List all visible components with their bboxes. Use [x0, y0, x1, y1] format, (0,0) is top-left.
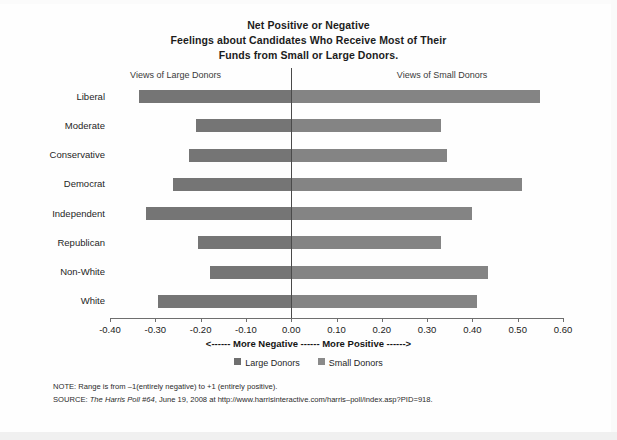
bar-row: Liberal — [110, 90, 563, 103]
legend-swatch-icon — [318, 358, 325, 365]
bar-row: Non-White — [110, 266, 563, 279]
bar-row: Conservative — [110, 149, 563, 162]
category-label: Independent — [52, 209, 105, 219]
x-tick-label: -0.10 — [224, 324, 268, 335]
bar-segment-small-donors — [291, 207, 472, 220]
category-label: Liberal — [76, 92, 105, 102]
x-tick — [337, 318, 338, 322]
bar-row: Independent — [110, 207, 563, 220]
legend-item: Small Donors — [318, 357, 383, 368]
x-tick — [201, 318, 202, 322]
legend-item: Large Donors — [234, 357, 300, 368]
zero-axis-line — [291, 68, 292, 320]
category-label: White — [81, 296, 105, 306]
x-tick — [155, 318, 156, 322]
x-tick — [472, 318, 473, 322]
bar-segment-small-donors — [291, 90, 540, 103]
column-header-large-donors: Views of Large Donors — [88, 70, 263, 80]
bar-row: Moderate — [110, 119, 563, 132]
chart-page: Net Positive or Negative Feelings about … — [0, 0, 617, 440]
source-rest: , June 19, 2008 at http://www.harrisinte… — [155, 395, 433, 404]
bar-segment-large-donors — [189, 149, 291, 162]
x-tick-label: -0.40 — [88, 324, 132, 335]
x-tick — [291, 318, 292, 322]
x-tick-label: -0.30 — [133, 324, 177, 335]
x-tick — [110, 318, 111, 322]
x-tick-label: 0.40 — [450, 324, 494, 335]
category-label: Conservative — [50, 150, 105, 160]
note-line: NOTE: Range is from –1(entirely negative… — [53, 381, 573, 394]
bar-segment-large-donors — [210, 266, 292, 279]
x-tick — [246, 318, 247, 322]
legend-swatch-icon — [234, 358, 241, 365]
legend-label: Large Donors — [245, 358, 300, 368]
column-header-small-donors: Views of Small Donors — [332, 70, 552, 80]
bar-segment-small-donors — [291, 119, 440, 132]
x-tick-label: 0.30 — [405, 324, 449, 335]
bar-segment-small-donors — [291, 149, 447, 162]
category-label: Democrat — [64, 179, 105, 189]
x-tick — [518, 318, 519, 322]
x-tick-label: 0.50 — [496, 324, 540, 335]
x-tick-label: -0.20 — [179, 324, 223, 335]
x-tick — [563, 318, 564, 322]
bar-segment-small-donors — [291, 266, 488, 279]
x-tick-label: 0.10 — [315, 324, 359, 335]
plot-area: Views of Large Donors Views of Small Don… — [110, 84, 563, 318]
page-edge-top — [0, 0, 617, 4]
legend-label: Small Donors — [329, 358, 383, 368]
bar-segment-large-donors — [196, 119, 291, 132]
x-tick-label: 0.60 — [541, 324, 585, 335]
title-line-1: Net Positive or Negative — [0, 18, 617, 33]
chart-legend: Large DonorsSmall Donors — [0, 357, 617, 368]
bar-segment-large-donors — [139, 90, 291, 103]
bar-segment-small-donors — [291, 295, 477, 308]
bar-row: Democrat — [110, 178, 563, 191]
x-axis-label: <------ More Negative ------ More Positi… — [0, 338, 617, 349]
x-tick — [427, 318, 428, 322]
bar-segment-large-donors — [173, 178, 291, 191]
bar-segment-large-donors — [158, 295, 292, 308]
title-line-3: Funds from Small or Large Donors. — [0, 48, 617, 63]
x-tick-label: 0.20 — [360, 324, 404, 335]
source-line: SOURCE: The Harris Poll #64, June 19, 20… — [53, 394, 573, 407]
x-tick — [382, 318, 383, 322]
bar-segment-small-donors — [291, 178, 522, 191]
title-line-2: Feelings about Candidates Who Receive Mo… — [0, 33, 617, 48]
page-edge-bottom — [0, 432, 617, 440]
bar-row: White — [110, 295, 563, 308]
chart-title: Net Positive or Negative Feelings about … — [0, 18, 617, 63]
bar-segment-small-donors — [291, 236, 440, 249]
bar-segment-large-donors — [198, 236, 291, 249]
category-label: Non-White — [60, 267, 105, 277]
category-label: Republican — [57, 238, 105, 248]
source-publication: The Harris Poll #64 — [90, 395, 155, 404]
category-label: Moderate — [65, 121, 105, 131]
page-edge-right — [611, 0, 617, 440]
x-tick-label: 0.00 — [269, 324, 313, 335]
bar-row: Republican — [110, 236, 563, 249]
bar-segment-large-donors — [146, 207, 291, 220]
source-prefix: SOURCE: — [53, 395, 90, 404]
footnotes: NOTE: Range is from –1(entirely negative… — [53, 381, 573, 406]
